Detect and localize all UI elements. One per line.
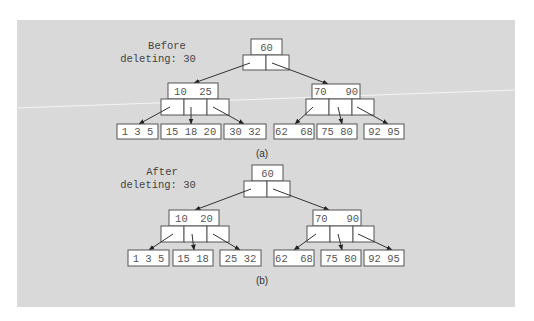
root-keys: 60 (261, 168, 274, 180)
svg-text:62 68: 62 68 (275, 126, 313, 138)
root-node: 60 (243, 39, 289, 70)
label-before-line1: Before (148, 40, 186, 52)
svg-text:1 3 5: 1 3 5 (133, 253, 165, 265)
leaf-node: 62 68 (274, 124, 314, 139)
svg-text:15 18: 15 18 (177, 253, 209, 265)
svg-text:30 32: 30 32 (229, 126, 261, 138)
leaf-node: 15 18 (173, 250, 213, 266)
root-node: 60 (244, 165, 290, 197)
edge-root-left (194, 63, 250, 83)
label-before-line2: deleting: 30 (120, 53, 196, 65)
caption-a: (a) (256, 148, 268, 159)
internal-left-keys: 10 25 (174, 86, 212, 98)
svg-text:25 32: 25 32 (225, 253, 257, 265)
scan-line (17, 90, 515, 108)
svg-text:1 3 5: 1 3 5 (122, 126, 154, 138)
leaf-node: 1 3 5 (128, 250, 169, 266)
edge-root-right (273, 189, 329, 210)
caption-b: (b) (256, 275, 268, 286)
internal-left-keys: 10 20 (175, 213, 213, 225)
label-after-line2: deleting: 30 (120, 179, 196, 191)
edge-root-right (272, 63, 328, 84)
internal-right-keys: 70 90 (314, 86, 358, 98)
internal-right-keys: 70 90 (315, 213, 359, 225)
diagram-b: After deleting: 30 60 10 20 70 90 (120, 165, 404, 286)
leaf-node: 15 18 20 (161, 124, 221, 139)
leaf-node: 92 95 (364, 124, 404, 139)
svg-text:92 95: 92 95 (368, 253, 400, 265)
svg-text:92 95: 92 95 (368, 126, 400, 138)
svg-text:15 18 20: 15 18 20 (166, 126, 216, 138)
leaf-node: 62 68 (274, 250, 314, 266)
btree-deletion-figure: Before deleting: 30 60 10 25 70 90 (0, 0, 534, 321)
root-keys: 60 (260, 42, 273, 54)
label-after-line1: After (146, 166, 178, 178)
leaf-node: 30 32 (224, 124, 266, 139)
leaf-node: 25 32 (220, 250, 261, 266)
leaf-node: 1 3 5 (117, 124, 158, 139)
edge-root-left (195, 189, 251, 210)
leaf-node: 75 80 (321, 250, 361, 266)
svg-text:75 80: 75 80 (321, 126, 353, 138)
leaf-node: 92 95 (364, 250, 404, 266)
svg-text:75 80: 75 80 (325, 253, 357, 265)
svg-text:62 68: 62 68 (275, 253, 313, 265)
leaf-node: 75 80 (317, 124, 357, 139)
